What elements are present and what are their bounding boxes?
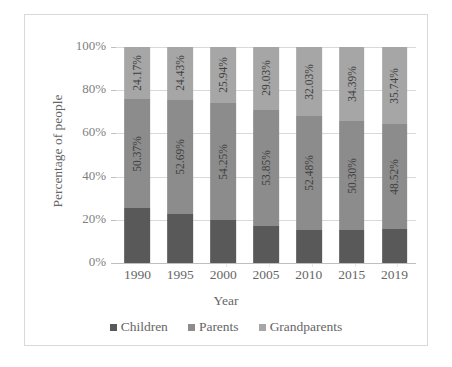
bar-group[interactable]: 53.85%29.03%— (245, 47, 288, 263)
bar-group[interactable]: 50.30%34.39%— (330, 47, 373, 263)
bar-group[interactable]: 54.25%25.94%— (202, 47, 245, 263)
x-tick-label: 1990 (116, 267, 159, 283)
plot-area: 50.37%24.17%52.69%24.43%54.25%25.94%—53.… (116, 47, 416, 263)
bar-segment-parents[interactable]: 48.52% (382, 124, 408, 229)
legend-swatch-icon (188, 324, 195, 331)
x-tick-label: 2005 (245, 267, 288, 283)
bar-segment-grandparents[interactable]: 34.39% (339, 47, 365, 121)
chart-legend: ChildrenParentsGrandparents (25, 319, 427, 335)
bar-value-label: 32.03% (303, 64, 315, 99)
bar-group[interactable]: 52.48%32.03%— (287, 47, 330, 263)
y-tick-label: 60% (25, 124, 106, 140)
stacked-bar[interactable]: 50.30%34.39%— (339, 47, 365, 263)
bar-segment-parents[interactable]: 54.25% (210, 103, 236, 220)
bar-value-label: 52.69% (174, 139, 186, 174)
bar-segment-parents[interactable]: 52.48% (296, 116, 322, 229)
bar-segment-children[interactable] (125, 208, 151, 263)
bar-value-label: 53.85% (260, 150, 272, 185)
bar-value-label: 54.25% (217, 144, 229, 179)
bar-group[interactable]: 48.52%35.74%— (373, 47, 416, 263)
bar-value-label: 35.74% (389, 68, 401, 103)
bar-segment-parents[interactable]: 50.30% (339, 121, 365, 230)
bar-value-label: 50.37% (131, 136, 143, 171)
stacked-bar[interactable]: 48.52%35.74%— (382, 47, 408, 263)
bar-value-label: 24.17% (131, 55, 143, 90)
bar-segment-children[interactable] (210, 220, 236, 263)
bar-value-label: 48.52% (389, 159, 401, 194)
bar-group[interactable]: 50.37%24.17% (116, 47, 159, 263)
stacked-bar[interactable]: 52.48%32.03%— (296, 47, 322, 263)
bar-value-label: 52.48% (303, 155, 315, 190)
chart-container: Percentage of people 0%20%40%60%80%100% … (24, 14, 428, 346)
stacked-bar[interactable]: 53.85%29.03%— (253, 47, 279, 263)
bar-segment-children[interactable] (339, 230, 365, 263)
legend-label: Parents (199, 319, 239, 335)
x-tick-label: 2019 (373, 267, 416, 283)
y-tick-label: 40% (25, 168, 106, 184)
bar-segment-grandparents[interactable]: 25.94% (210, 47, 236, 103)
bar-segment-grandparents[interactable]: 29.03% (253, 47, 279, 110)
legend-swatch-icon (259, 324, 266, 331)
bar-value-label: 50.30% (346, 158, 358, 193)
bar-segment-children[interactable] (167, 214, 193, 263)
legend-item[interactable]: Parents (188, 319, 239, 335)
y-tick-label: 20% (25, 211, 106, 227)
bar-segment-grandparents[interactable]: 24.17% (125, 47, 151, 99)
bar-segment-grandparents[interactable]: 32.03% (296, 47, 322, 116)
bar-value-label: 34.39% (346, 66, 358, 101)
x-tick-label: 2000 (202, 267, 245, 283)
stacked-bar[interactable]: 52.69%24.43% (167, 47, 193, 263)
y-tick-label: 100% (25, 38, 106, 54)
stacked-bar[interactable]: 50.37%24.17% (125, 47, 151, 263)
bar-segment-children[interactable] (382, 229, 408, 263)
y-tick-label: 80% (25, 81, 106, 97)
x-tick-label: 2010 (287, 267, 330, 283)
bar-value-label: 24.43% (174, 56, 186, 91)
bar-segment-parents[interactable]: 50.37% (125, 99, 151, 208)
legend-swatch-icon (110, 324, 117, 331)
x-axis-title: Year (25, 293, 427, 309)
stacked-bar[interactable]: 54.25%25.94%— (210, 47, 236, 263)
legend-label: Children (121, 319, 168, 335)
bar-segment-children[interactable] (296, 230, 322, 263)
bar-segment-grandparents[interactable]: 35.74% (382, 47, 408, 124)
bar-value-label: 25.94% (217, 57, 229, 92)
legend-item[interactable]: Grandparents (259, 319, 343, 335)
bar-segment-grandparents[interactable]: 24.43% (167, 47, 193, 100)
legend-item[interactable]: Children (110, 319, 168, 335)
legend-label: Grandparents (270, 319, 343, 335)
bar-segment-parents[interactable]: 52.69% (167, 100, 193, 214)
bar-segment-children[interactable] (253, 226, 279, 263)
bar-value-label: 29.03% (260, 61, 272, 96)
y-tick-label: 0% (25, 254, 106, 270)
x-axis-line (116, 263, 416, 264)
x-tick-label: 2015 (330, 267, 373, 283)
bar-segment-parents[interactable]: 53.85% (253, 110, 279, 226)
bar-group[interactable]: 52.69%24.43% (159, 47, 202, 263)
x-tick-label: 1995 (159, 267, 202, 283)
